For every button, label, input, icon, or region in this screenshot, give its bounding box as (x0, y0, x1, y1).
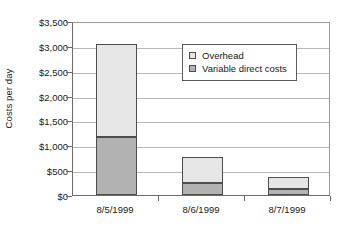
y-tick-label: $3,500 (14, 17, 68, 28)
legend-swatch-icon (189, 52, 196, 59)
bar-segment-variable-direct-costs[interactable] (268, 189, 309, 195)
x-tick-mark (158, 196, 159, 201)
legend-item[interactable]: Variable direct costs (189, 62, 287, 75)
y-axis-title-label: Costs per day (4, 68, 15, 128)
x-tick-label: 8/7/1999 (269, 204, 306, 215)
bar-segment-overhead[interactable] (96, 44, 137, 137)
y-tick-label: $1,500 (14, 116, 68, 127)
x-tick-label: 8/6/1999 (183, 204, 220, 215)
y-tick-label: $0 (14, 191, 68, 202)
x-tick-label: 8/5/1999 (97, 204, 134, 215)
legend-label: Overhead (202, 50, 244, 61)
legend-item[interactable]: Overhead (189, 49, 287, 62)
bar-stack[interactable] (96, 21, 137, 195)
stacked-bar-chart: Costs per day $0$500$1,000$1,500$2,000$2… (0, 0, 347, 229)
y-tick-label: $1,000 (14, 141, 68, 152)
bar-segment-variable-direct-costs[interactable] (96, 137, 137, 195)
y-tick-mark (66, 196, 72, 197)
y-tick-label: $2,500 (14, 66, 68, 77)
bar-segment-variable-direct-costs[interactable] (182, 183, 223, 195)
y-tick-label: $500 (14, 166, 68, 177)
chart-legend: OverheadVariable direct costs (182, 44, 297, 81)
bar-segment-overhead[interactable] (268, 177, 309, 189)
x-tick-mark (330, 196, 331, 201)
legend-swatch-icon (189, 65, 196, 72)
x-tick-mark (244, 196, 245, 201)
y-tick-label: $3,000 (14, 41, 68, 52)
legend-label: Variable direct costs (202, 63, 287, 74)
y-tick-label: $2,000 (14, 91, 68, 102)
bar-segment-overhead[interactable] (182, 157, 223, 182)
